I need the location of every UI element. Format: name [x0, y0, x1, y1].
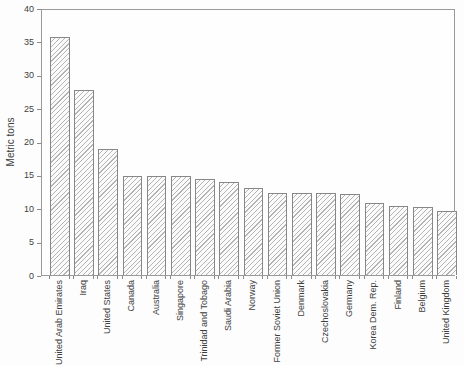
bar: [268, 193, 288, 275]
x-tick-mark: [315, 276, 316, 279]
x-tick-mark: [218, 276, 219, 279]
x-tick-mark: [170, 276, 171, 279]
plot-area: [41, 9, 455, 276]
x-tick-mark: [117, 276, 118, 279]
y-tick-label: 5: [0, 238, 34, 247]
y-tick-label: 15: [0, 171, 34, 180]
x-tick-mark: [383, 276, 384, 279]
x-tick-mark: [311, 276, 312, 279]
bar: [147, 176, 167, 275]
x-category-label: Former Soviet Union: [272, 280, 282, 363]
x-category-label: United States: [102, 280, 112, 334]
bar: [195, 179, 215, 275]
x-category-label: United Arab Emirates: [54, 280, 64, 365]
x-tick-mark: [97, 276, 98, 279]
x-category-label: Czechoslovakia: [320, 280, 330, 343]
bar: [316, 193, 336, 275]
x-category-label: Saudi Arabia: [223, 280, 233, 331]
x-tick-mark: [436, 276, 437, 279]
x-tick-mark: [194, 276, 195, 279]
y-tick-mark: [37, 209, 41, 210]
y-tick-label: 10: [0, 205, 34, 214]
x-tick-mark: [286, 276, 287, 279]
x-tick-mark: [49, 276, 50, 279]
x-category-label: Singapore: [175, 280, 185, 321]
bar: [292, 193, 312, 275]
x-tick-mark: [339, 276, 340, 279]
x-tick-mark: [122, 276, 123, 279]
x-tick-mark: [238, 276, 239, 279]
x-tick-mark: [93, 276, 94, 279]
y-tick-mark: [37, 276, 41, 277]
x-tick-mark: [407, 276, 408, 279]
bar: [123, 176, 143, 275]
x-tick-mark: [73, 276, 74, 279]
y-tick-mark: [37, 243, 41, 244]
y-tick-label: 40: [0, 5, 34, 14]
bar: [171, 176, 191, 275]
x-category-label: Australia: [151, 280, 161, 315]
y-tick-mark: [37, 9, 41, 10]
x-tick-mark: [364, 276, 365, 279]
x-category-label: Canada: [126, 280, 136, 312]
y-tick-mark: [37, 143, 41, 144]
x-tick-mark: [190, 276, 191, 279]
y-tick-mark: [37, 76, 41, 77]
x-tick-mark: [432, 276, 433, 279]
y-tick-label: 35: [0, 38, 34, 47]
x-tick-mark: [214, 276, 215, 279]
x-category-label: Korea Dem. Rep.: [368, 280, 378, 350]
bar-chart: Metric tons 0510152025303540 United Arab…: [0, 0, 464, 365]
bar: [74, 90, 94, 276]
bar: [365, 203, 385, 275]
x-category-label: Belgium: [417, 280, 427, 313]
x-tick-mark: [267, 276, 268, 279]
x-category-label: Germany: [344, 280, 354, 317]
x-tick-mark: [456, 276, 457, 279]
x-tick-mark: [262, 276, 263, 279]
y-tick-label: 0: [0, 272, 34, 281]
x-tick-mark: [69, 276, 70, 279]
bar: [340, 194, 360, 275]
x-category-label: Norway: [247, 280, 257, 311]
y-tick-mark: [37, 42, 41, 43]
bar: [98, 149, 118, 275]
x-category-label: Denmark: [296, 280, 306, 317]
x-tick-mark: [388, 276, 389, 279]
x-category-label: United Kingdom: [441, 280, 451, 344]
x-category-label: Finland: [393, 280, 403, 310]
y-tick-label: 30: [0, 71, 34, 80]
x-category-label: Iraq: [78, 280, 88, 296]
x-tick-mark: [165, 276, 166, 279]
x-tick-mark: [359, 276, 360, 279]
bar: [244, 188, 264, 275]
bar: [50, 37, 70, 276]
x-tick-mark: [412, 276, 413, 279]
y-tick-label: 25: [0, 105, 34, 114]
x-tick-mark: [243, 276, 244, 279]
x-tick-mark: [335, 276, 336, 279]
bar: [413, 207, 433, 275]
bar: [437, 211, 457, 275]
x-tick-mark: [291, 276, 292, 279]
x-category-label: Trinidad and Tobago: [199, 280, 209, 362]
y-tick-label: 20: [0, 138, 34, 147]
bar: [219, 182, 239, 275]
x-tick-mark: [146, 276, 147, 279]
y-tick-mark: [37, 176, 41, 177]
x-tick-mark: [141, 276, 142, 279]
y-tick-mark: [37, 109, 41, 110]
bar: [389, 206, 409, 275]
